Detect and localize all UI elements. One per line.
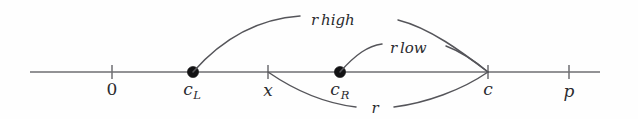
axis-label-c-left-subscript: L xyxy=(192,88,201,102)
curve-label-r-low-base: r xyxy=(390,39,398,57)
axis-label-c-right-base: c xyxy=(330,79,340,99)
axis-label-c-right-subscript: R xyxy=(340,88,350,102)
number-line-diagram: 0 c L x c R c p r high r low r xyxy=(0,0,638,119)
curve-label-r-low: r low xyxy=(390,39,427,57)
axis-label-p: p xyxy=(564,81,575,101)
curve-label-r-high-subscript: high xyxy=(321,11,355,29)
curve-label-r-low-subscript: low xyxy=(400,39,427,57)
axis-label-zero: 0 xyxy=(107,79,118,99)
axis-label-c-right: c R xyxy=(330,79,349,102)
figure-container: 0 c L x c R c p r high r low r xyxy=(0,0,638,119)
curve-label-r-high-base: r xyxy=(311,11,319,29)
curve-label-r: r xyxy=(371,99,379,117)
axis-label-x: x xyxy=(263,80,273,100)
axis-label-c-left: c L xyxy=(183,79,201,102)
curve-r-right-segment xyxy=(394,72,488,107)
axis-label-c: c xyxy=(483,79,493,99)
curve-r-low-left-segment xyxy=(340,44,382,72)
axis-label-c-left-base: c xyxy=(183,79,193,99)
curve-r-high-left-segment xyxy=(193,16,300,72)
curve-label-r-high: r high xyxy=(311,11,355,29)
